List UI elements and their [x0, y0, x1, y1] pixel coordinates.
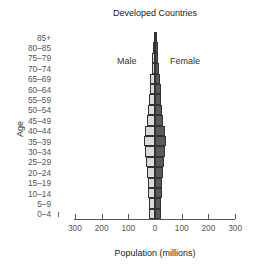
legend-female: Female [170, 56, 200, 66]
bar-female [155, 74, 160, 84]
legend-male: Male [117, 56, 137, 66]
x-tick [128, 214, 129, 219]
x-tick-label: 100 [116, 223, 140, 233]
age-label: 55–59 [28, 95, 51, 105]
age-label: 50–54 [28, 105, 51, 115]
bar-male [145, 126, 155, 136]
x-tick-label: 200 [90, 223, 114, 233]
bar-female [155, 32, 157, 42]
y-axis-label: Age [15, 121, 25, 137]
bar-female [155, 115, 163, 125]
bar-female [155, 146, 165, 156]
age-label: 85+ [37, 33, 51, 43]
bar-female [155, 126, 165, 136]
bar-male [148, 105, 155, 115]
bar-female [155, 94, 161, 104]
bar-male [147, 167, 155, 177]
x-tick-label: 0 [143, 223, 167, 233]
x-tick-label: 300 [223, 223, 247, 233]
age-label: 70–74 [28, 64, 51, 74]
bar-male [145, 146, 155, 156]
age-label: 10–14 [28, 189, 51, 199]
bar-female [155, 188, 162, 198]
x-tick-label: 300 [63, 223, 87, 233]
bar-male [144, 136, 155, 146]
age-label: 65–69 [28, 74, 51, 84]
age-label: 15–19 [28, 178, 51, 188]
bar-female [155, 42, 158, 52]
bar-female [155, 63, 159, 73]
bar-female [155, 167, 163, 177]
age-label: 80–85 [28, 43, 51, 53]
x-axis-line [74, 219, 235, 220]
age-label: 40–44 [28, 126, 51, 136]
bar-female [155, 198, 161, 208]
age-label: 35–39 [28, 137, 51, 147]
bar-female [155, 178, 162, 188]
bar-female [155, 136, 166, 146]
age-label: 25–29 [28, 157, 51, 167]
y-axis-mark [58, 212, 59, 217]
x-tick [75, 214, 76, 219]
x-tick [208, 214, 209, 219]
chart-title: Developed Countries [0, 8, 257, 18]
bar-male [148, 178, 155, 188]
bar-female [155, 53, 158, 63]
bar-female [155, 105, 162, 115]
x-tick-label: 200 [196, 223, 220, 233]
age-label: 45–49 [28, 116, 51, 126]
age-label: 75–79 [28, 53, 51, 63]
bar-female [155, 209, 161, 219]
bar-male [148, 188, 155, 198]
bar-male [146, 157, 155, 167]
age-label: 30–34 [28, 147, 51, 157]
x-tick [102, 214, 103, 219]
x-tick [235, 214, 236, 219]
x-tick [182, 214, 183, 219]
bar-male [147, 115, 155, 125]
bar-female [155, 84, 161, 94]
x-axis-label: Population (millions) [0, 248, 257, 258]
age-label: 20–24 [28, 168, 51, 178]
bar-female [155, 157, 164, 167]
age-label: 60–64 [28, 85, 51, 95]
x-tick-label: 100 [170, 223, 194, 233]
age-label: 5–9 [37, 199, 51, 209]
age-label: 0–4 [37, 209, 51, 219]
